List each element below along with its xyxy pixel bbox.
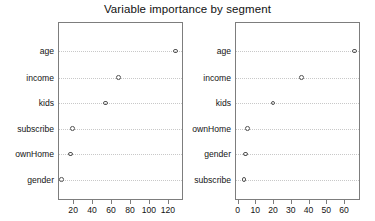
gridline — [236, 103, 359, 104]
category-label-subscribe: subscribe — [0, 175, 231, 185]
plot-frame-right — [235, 22, 360, 200]
category-label-ownhome: ownHome — [0, 124, 231, 134]
figure-canvas: Variable importance by segment ageincome… — [0, 0, 375, 221]
axis-tick — [291, 200, 292, 204]
axis-tick — [238, 200, 239, 204]
page-title: Variable importance by segment — [0, 3, 375, 15]
axis-tick — [149, 200, 150, 204]
gridline — [236, 51, 359, 52]
axis-tick — [73, 200, 74, 204]
axis-tick — [344, 200, 345, 204]
axis-tick — [130, 200, 131, 204]
axis-tick — [273, 200, 274, 204]
gridline — [236, 78, 359, 79]
data-point — [242, 177, 247, 182]
axis-tick-label: 50 — [322, 205, 332, 215]
gridline — [236, 129, 359, 130]
category-label-income: income — [0, 73, 231, 83]
axis-tick — [168, 200, 169, 204]
axis-tick — [111, 200, 112, 204]
axis-tick — [309, 200, 310, 204]
gridline — [236, 180, 359, 181]
axis-tick-label: 30 — [286, 205, 296, 215]
axis-tick-label: 60 — [106, 205, 116, 215]
category-label-kids: kids — [0, 98, 231, 108]
axis-tick — [255, 200, 256, 204]
data-point — [245, 126, 250, 131]
axis-tick-label: 80 — [125, 205, 135, 215]
axis-tick-label: 60 — [339, 205, 349, 215]
axis-tick-label: 10 — [251, 205, 261, 215]
axis-tick-label: 120 — [161, 205, 175, 215]
plot-panel-right — [235, 22, 360, 200]
category-label-age: age — [0, 46, 231, 56]
gridline — [236, 154, 359, 155]
axis-tick — [326, 200, 327, 204]
axis-tick-label: 40 — [87, 205, 97, 215]
x-axis-right: 0102030405060 — [235, 200, 360, 221]
axis-tick-label: 0 — [235, 205, 240, 215]
category-label-gender: gender — [0, 149, 231, 159]
axis-tick-label: 20 — [68, 205, 78, 215]
data-point — [299, 75, 304, 80]
axis-tick — [92, 200, 93, 204]
axis-tick-label: 20 — [268, 205, 278, 215]
x-axis-left: 20406080100120 — [58, 200, 183, 221]
axis-tick-label: 40 — [304, 205, 314, 215]
axis-tick-label: 100 — [142, 205, 156, 215]
